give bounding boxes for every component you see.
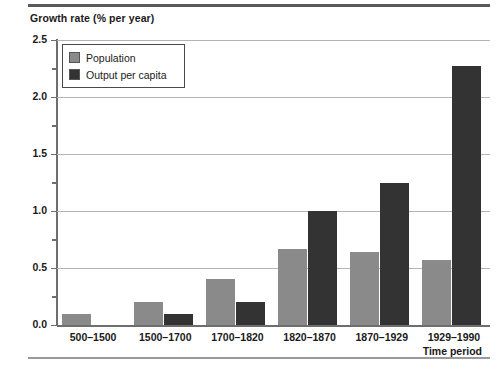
- bar-output-per-capita: [236, 302, 265, 325]
- bar-output-per-capita: [380, 183, 409, 326]
- y-axis-tick-minor: [52, 68, 57, 70]
- y-axis-tick-label: 1.5: [5, 147, 47, 159]
- y-axis-tick-label: 0.5: [5, 261, 47, 273]
- x-axis-line: [57, 325, 490, 327]
- x-axis-category-label: 1700–1820: [201, 331, 273, 343]
- bar-population: [134, 302, 163, 325]
- legend-item-output-per-capita: Output per capita: [69, 66, 178, 83]
- legend-item-population: Population: [69, 49, 178, 66]
- top-divider-rule: [28, 4, 490, 7]
- legend-label-population: Population: [86, 52, 136, 64]
- gridline: [57, 211, 490, 212]
- bar-population: [278, 249, 307, 325]
- chart-legend: Population Output per capita: [62, 44, 185, 88]
- x-axis-category-label: 1500–1700: [129, 331, 201, 343]
- gridline: [57, 154, 490, 155]
- y-axis-tick-minor: [52, 239, 57, 241]
- y-axis-tick-minor: [52, 182, 57, 184]
- bar-output-per-capita: [452, 66, 481, 325]
- bar-population: [206, 279, 235, 325]
- legend-swatch-output-per-capita-icon: [69, 69, 80, 80]
- y-axis-tick-major: [51, 97, 57, 99]
- bottom-divider-rule: [28, 357, 490, 359]
- x-axis-title: Time period: [423, 345, 482, 357]
- bar-population: [62, 314, 91, 325]
- y-axis-tick-major: [51, 40, 57, 42]
- legend-label-output-per-capita: Output per capita: [86, 69, 167, 81]
- bar-output-per-capita: [308, 211, 337, 325]
- legend-swatch-population-icon: [69, 52, 80, 63]
- y-axis-tick-minor: [52, 125, 57, 127]
- bar-population: [422, 260, 451, 325]
- x-axis-category-label: 500–1500: [57, 331, 129, 343]
- x-axis-category-label: 1820–1870: [274, 331, 346, 343]
- y-axis-tick-major: [51, 154, 57, 156]
- y-axis-tick-label: 2.5: [5, 33, 47, 45]
- y-axis-title: Growth rate (% per year): [30, 12, 154, 24]
- bar-population: [350, 252, 379, 325]
- gridline: [57, 40, 490, 41]
- x-axis-category-label: 1929–1990: [418, 331, 490, 343]
- y-axis-tick-label: 1.0: [5, 204, 47, 216]
- bar-output-per-capita: [164, 314, 193, 325]
- y-axis-tick-label: 0.0: [5, 318, 47, 330]
- y-axis-tick-minor: [52, 296, 57, 298]
- x-axis-category-label: 1870–1929: [346, 331, 418, 343]
- y-axis-tick-major: [51, 268, 57, 270]
- gridline: [57, 97, 490, 98]
- y-axis-tick-major: [51, 211, 57, 213]
- y-axis-tick-major: [51, 325, 57, 327]
- y-axis-tick-label: 2.0: [5, 90, 47, 102]
